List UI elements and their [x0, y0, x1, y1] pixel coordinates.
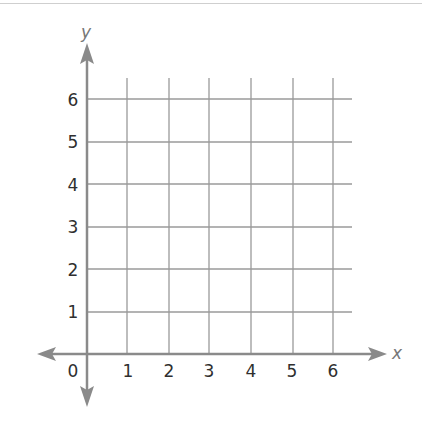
origin-label: 0	[68, 361, 79, 381]
y-tick-label: 5	[68, 132, 79, 152]
y-tick-label: 4	[68, 175, 79, 195]
x-axis	[37, 347, 387, 361]
x-tick-label: 1	[123, 361, 134, 381]
x-tick-label: 2	[164, 361, 175, 381]
y-tick-label: 2	[68, 260, 79, 280]
coordinate-grid: y x 0 1 2 3 4 5 6 1 2 3 4 5 6	[0, 0, 422, 434]
x-tick-labels: 1 2 3 4 5 6	[123, 361, 339, 381]
x-tick-label: 6	[328, 361, 339, 381]
y-tick-label: 6	[68, 90, 79, 110]
y-tick-labels: 1 2 3 4 5 6	[68, 90, 79, 322]
y-axis-label: y	[80, 22, 92, 42]
x-axis-label: x	[391, 343, 403, 363]
y-tick-label: 3	[68, 217, 79, 237]
y-tick-label: 1	[68, 302, 79, 322]
x-tick-label: 3	[204, 361, 215, 381]
x-tick-label: 4	[246, 361, 257, 381]
y-axis	[80, 43, 94, 407]
x-tick-label: 5	[287, 361, 298, 381]
